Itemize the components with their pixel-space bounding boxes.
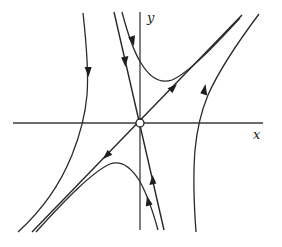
right-trajectory-arrow-icon [200,84,207,95]
unstable-manifold-arrow-upper-icon [168,84,177,93]
y-axis-label: y [147,11,154,24]
left-trajectory-arrow-icon [85,67,92,77]
stable-manifold-arrow-lower-icon [149,175,156,185]
x-axis-label: x [253,128,260,141]
phase-portrait-figure: y x [0,0,282,247]
stable-manifold-arrow-upper-icon [121,56,128,67]
lower-left-trajectory-arrow-icon [146,196,153,207]
phase-portrait-svg [0,0,282,247]
saddle-point-origin [136,119,144,127]
